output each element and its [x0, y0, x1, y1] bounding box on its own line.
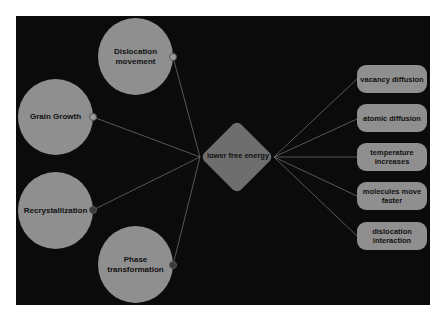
node-label: Grain Growth [30, 112, 81, 122]
node-label: dislocation interaction [360, 227, 424, 245]
connector-handle[interactable] [89, 113, 97, 121]
node-recrystallization[interactable]: Recrystallization [18, 172, 93, 249]
node-atomic-diffusion[interactable]: atomic diffusion [357, 104, 427, 132]
node-label: vacancy diffusion [360, 75, 423, 84]
node-label: atomic diffusion [363, 114, 421, 123]
center-node-label: lower free energy [196, 151, 280, 160]
node-label: Dislocation movement [104, 47, 167, 67]
node-label: temperature increases [360, 148, 424, 166]
node-grain-growth[interactable]: Grain Growth [18, 79, 93, 155]
node-label: Recrystallization [24, 206, 88, 216]
node-molecules-move-faster[interactable]: molecules move faster [357, 182, 427, 210]
node-dislocation-interaction[interactable]: dislocation interaction [357, 222, 427, 250]
node-label: molecules move faster [360, 187, 424, 205]
connector-handle[interactable] [89, 206, 97, 214]
node-temperature-increases[interactable]: temperature increases [357, 143, 427, 171]
connector-handle[interactable] [169, 53, 177, 61]
connector-handle[interactable] [169, 261, 177, 269]
node-vacancy-diffusion[interactable]: vacancy diffusion [357, 65, 427, 93]
node-label: Phase transformation [104, 255, 167, 275]
node-phase-transformation[interactable]: Phase transformation [98, 226, 173, 303]
node-dislocation-movement[interactable]: Dislocation movement [98, 18, 173, 95]
